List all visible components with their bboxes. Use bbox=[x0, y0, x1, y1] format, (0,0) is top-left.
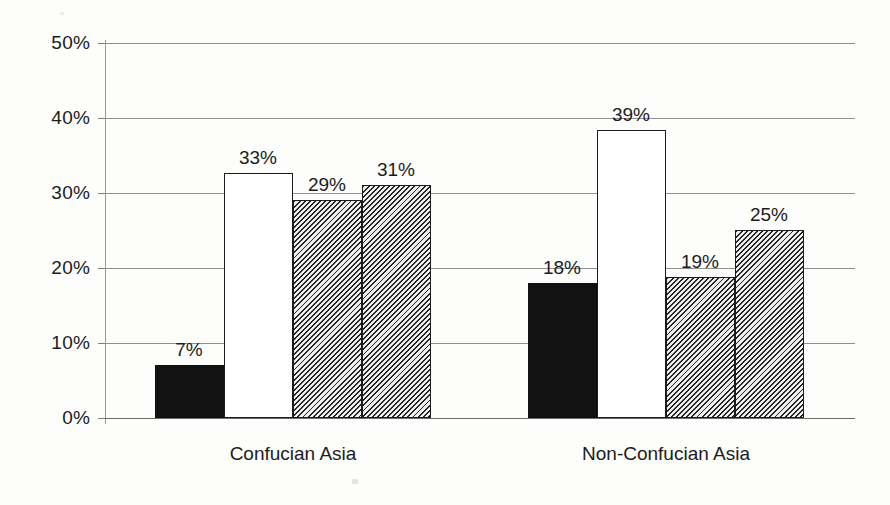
gridline-50 bbox=[105, 43, 855, 44]
bar-value-nonconfucian-1: 18% bbox=[543, 257, 581, 279]
y-axis-tick bbox=[98, 343, 105, 344]
bar-confucian-1[interactable] bbox=[155, 365, 224, 418]
y-axis-labels: 50% 40% 30% 20% 10% 0% bbox=[28, 43, 90, 418]
bar-confucian-2[interactable] bbox=[224, 173, 293, 418]
bar-value-confucian-1: 7% bbox=[175, 339, 202, 361]
bar-value-confucian-4: 31% bbox=[377, 159, 415, 181]
y-tick-label-30: 30% bbox=[30, 182, 90, 204]
y-axis-tick bbox=[98, 418, 105, 419]
x-category-label-non-confucian-asia: Non-Confucian Asia bbox=[582, 443, 750, 465]
y-axis-tick bbox=[98, 43, 105, 44]
bar-nonconfucian-3[interactable] bbox=[666, 277, 735, 418]
plot-area: 7% 33% 29% 31% 18% 39% 19% 25% bbox=[105, 43, 855, 418]
bar-nonconfucian-4[interactable] bbox=[735, 230, 804, 418]
y-tick-label-10: 10% bbox=[30, 332, 90, 354]
bar-nonconfucian-2[interactable] bbox=[597, 130, 666, 418]
bar-value-nonconfucian-3: 19% bbox=[681, 251, 719, 273]
x-category-label-confucian-asia: Confucian Asia bbox=[230, 443, 357, 465]
y-tick-label-0: 0% bbox=[30, 407, 90, 429]
gridline-baseline-0 bbox=[105, 418, 855, 419]
bar-value-nonconfucian-4: 25% bbox=[750, 204, 788, 226]
y-tick-label-20: 20% bbox=[30, 257, 90, 279]
scan-artifact bbox=[352, 479, 358, 484]
bar-value-confucian-2: 33% bbox=[239, 147, 277, 169]
y-tick-label-50: 50% bbox=[30, 32, 90, 54]
bar-confucian-3[interactable] bbox=[293, 200, 362, 418]
y-axis-tick bbox=[98, 118, 105, 119]
bar-confucian-4[interactable] bbox=[362, 185, 431, 418]
scan-artifact bbox=[60, 12, 64, 15]
bar-nonconfucian-1[interactable] bbox=[528, 283, 597, 418]
gridline-40 bbox=[105, 118, 855, 119]
bar-value-nonconfucian-2: 39% bbox=[612, 104, 650, 126]
gridline-30 bbox=[105, 193, 855, 194]
y-axis-tick bbox=[98, 268, 105, 269]
y-axis-tick bbox=[98, 193, 105, 194]
bar-chart: 50% 40% 30% 20% 10% 0% 7% 33% 29% 31% bbox=[0, 0, 890, 505]
bar-value-confucian-3: 29% bbox=[308, 174, 346, 196]
y-tick-label-40: 40% bbox=[30, 107, 90, 129]
